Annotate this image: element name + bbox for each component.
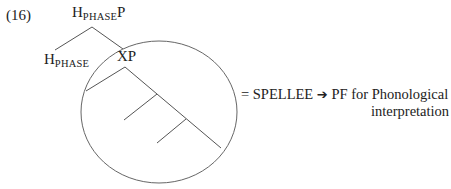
node-hphase-p-head: H — [72, 4, 83, 20]
node-hphase-sub: PHASE — [55, 58, 89, 69]
spellout-domain-circle — [81, 41, 237, 183]
spellee-annotation-line2: interpretation — [371, 104, 449, 119]
node-hphase-p-sub: PHASE — [83, 11, 117, 22]
node-hphase-p: HPHASEP — [72, 5, 125, 20]
phase-spellout-diagram: (16) HPHASEP HPHASE XP = SPELLEE ➔ PF fo… — [0, 0, 451, 189]
spellee-label: = SPELLEE — [241, 86, 313, 102]
arrow-right-icon: ➔ — [317, 87, 328, 102]
node-hphase-head: H — [44, 51, 55, 67]
branch-root-to-xp — [92, 27, 123, 49]
pf-text: PF for Phonological — [331, 86, 448, 102]
spine-branch-1 — [124, 94, 157, 120]
example-number: (16) — [6, 8, 31, 23]
spellee-annotation-line1: = SPELLEE ➔ PF for Phonological — [241, 87, 448, 102]
xp-left-branch — [86, 67, 125, 91]
node-hphase-p-suffix: P — [117, 4, 125, 20]
spine-branch-2 — [157, 119, 186, 143]
node-hphase: HPHASE — [44, 52, 89, 67]
branch-root-to-hphase — [55, 27, 92, 50]
node-xp: XP — [117, 49, 136, 64]
